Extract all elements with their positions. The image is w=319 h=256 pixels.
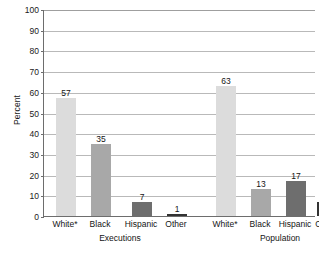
gridline [44, 134, 315, 135]
gridline [44, 114, 315, 115]
y-axis-tick-mark [41, 176, 45, 177]
bar [286, 181, 306, 216]
y-axis-tick-mark [41, 93, 45, 94]
y-axis-tick-mark [41, 134, 45, 135]
bar-value-label: 35 [96, 134, 105, 144]
y-axis-tick-label: 0 [34, 212, 39, 222]
gridline [44, 72, 315, 73]
bar-value-label: 13 [256, 179, 265, 189]
bar-value-label: 63 [221, 76, 230, 86]
y-axis-tick-label: 40 [30, 129, 39, 139]
gridline [44, 196, 315, 197]
bar [216, 86, 236, 216]
y-axis-tick-mark [41, 31, 45, 32]
x-axis-category-label: Other [315, 219, 319, 229]
x-axis-category-label: Hispanic [279, 219, 312, 229]
y-axis-tick-label: 70 [30, 67, 39, 77]
y-axis-tick-label: 60 [30, 88, 39, 98]
plot-area: 0102030405060708090100 5735716313177 [43, 10, 315, 217]
x-axis-group-label: Population [260, 233, 300, 243]
y-axis-tick-mark [41, 217, 45, 218]
x-axis-group-label: Executions [99, 233, 141, 243]
x-axis-category-label: Black [250, 219, 271, 229]
y-axis-tick-label: 10 [30, 191, 39, 201]
bar [56, 98, 76, 216]
bar [132, 202, 152, 216]
x-axis-category-label: Other [165, 219, 186, 229]
bar-value-label: 7 [140, 192, 145, 202]
bar-chart-figure: Percent 0102030405060708090100 573571631… [0, 0, 319, 256]
y-axis-tick-mark [41, 196, 45, 197]
x-axis-category-label: Black [90, 219, 111, 229]
y-axis-tick-label: 100 [25, 5, 39, 15]
y-axis-tick-mark [41, 10, 45, 11]
x-axis-category-label: Hispanic [125, 219, 158, 229]
bar-value-label: 57 [61, 88, 70, 98]
y-axis-tick-mark [41, 51, 45, 52]
y-axis-tick-mark [41, 114, 45, 115]
gridline [44, 176, 315, 177]
y-axis-tick-label: 80 [30, 46, 39, 56]
gridline [44, 51, 315, 52]
y-axis-tick-mark [41, 155, 45, 156]
y-axis-tick-label: 50 [30, 109, 39, 119]
y-axis-tick-label: 20 [30, 171, 39, 181]
gridline [44, 93, 315, 94]
bar [251, 189, 271, 216]
y-axis-tick-label: 90 [30, 26, 39, 36]
bar-value-label: 17 [291, 171, 300, 181]
y-axis-tick-label: 30 [30, 150, 39, 160]
bar [167, 214, 187, 216]
gridline [44, 155, 315, 156]
bar [91, 144, 111, 216]
bar-value-label: 1 [175, 204, 180, 214]
x-axis-category-label: White* [52, 219, 77, 229]
gridline [44, 10, 315, 11]
y-axis-tick-mark [41, 72, 45, 73]
y-axis-title: Percent [12, 80, 22, 140]
x-axis-category-label: White* [212, 219, 237, 229]
gridline [44, 31, 315, 32]
bar [317, 202, 319, 216]
